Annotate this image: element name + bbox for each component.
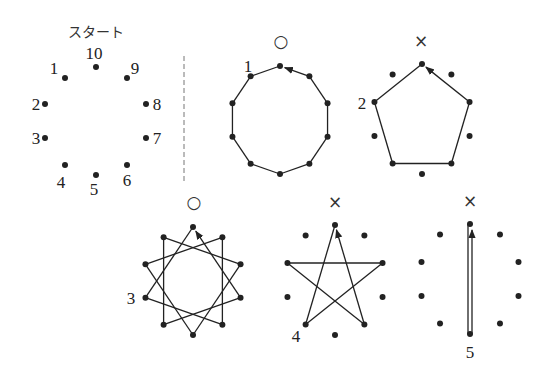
start-point-label: 10: [86, 44, 103, 63]
figure-label: 3: [127, 289, 136, 308]
dot: [219, 234, 225, 240]
path-line: [251, 164, 280, 174]
cross-mark-icon: ×: [463, 191, 477, 211]
dot: [437, 320, 443, 326]
dot: [361, 233, 367, 239]
dot: [238, 295, 244, 301]
path-line: [451, 102, 469, 163]
dot: [380, 294, 386, 300]
dot: [277, 63, 283, 69]
dot: [303, 321, 309, 327]
dot: [516, 293, 522, 299]
dot: [380, 260, 386, 266]
dot: [229, 134, 235, 140]
dot: [284, 260, 290, 266]
dot: [332, 222, 338, 228]
path-line: [374, 102, 392, 163]
dot: [229, 100, 235, 106]
start-panel: スタート 12345678910: [32, 24, 162, 199]
start-dot: [62, 75, 68, 81]
dot: [361, 321, 367, 327]
start-point-label: 1: [50, 59, 59, 78]
path-arrow: [336, 230, 364, 325]
cross-mark-icon: ×: [328, 192, 342, 212]
start-point-label: 3: [32, 129, 41, 148]
start-dot: [143, 101, 149, 107]
dot: [419, 61, 425, 67]
start-point-label: 2: [32, 95, 41, 114]
start-point-label: 7: [153, 129, 162, 148]
start-dot: [143, 135, 149, 141]
figure-label: 2: [358, 94, 367, 113]
path-line: [287, 263, 364, 324]
dot: [497, 232, 503, 238]
dot: [303, 233, 309, 239]
dot: [190, 332, 196, 338]
dot: [332, 332, 338, 338]
dot: [467, 331, 473, 337]
dot: [371, 133, 377, 139]
figure-label: 4: [292, 327, 301, 346]
path-line: [232, 137, 250, 164]
path-arrow: [285, 68, 310, 77]
path-line: [306, 263, 383, 324]
cross-mark-icon: ×: [414, 31, 428, 51]
start-dot: [124, 162, 130, 168]
path-arrow: [426, 67, 470, 102]
dot: [248, 161, 254, 167]
path-line: [309, 76, 327, 103]
path-line: [251, 66, 280, 76]
dot: [419, 171, 425, 177]
path-line: [309, 137, 327, 164]
path-line: [232, 76, 250, 103]
path-line: [306, 225, 335, 324]
start-point-label: 5: [90, 180, 99, 199]
dot: [284, 294, 290, 300]
dot: [325, 100, 331, 106]
dot: [161, 322, 167, 328]
start-point-label: 9: [131, 59, 140, 78]
figure-step2: ×2: [358, 31, 473, 177]
dot: [448, 160, 454, 166]
start-dot: [124, 75, 130, 81]
dot: [306, 73, 312, 79]
diagram-canvas: スタート 12345678910 ○1×2○3×4×5: [0, 0, 556, 380]
start-dot: [93, 64, 99, 70]
start-title: スタート: [68, 24, 124, 40]
start-dot: [93, 172, 99, 178]
dot: [277, 171, 283, 177]
start-point-label: 8: [153, 95, 162, 114]
dot: [467, 99, 473, 105]
dot: [437, 232, 443, 238]
path-arrow: [196, 231, 241, 298]
circle-mark-icon: ○: [274, 31, 289, 51]
dot: [448, 72, 454, 78]
start-points: 12345678910: [32, 44, 162, 199]
figure-step4: ×4: [284, 192, 385, 346]
dot: [161, 234, 167, 240]
path-line: [280, 164, 309, 174]
path-line: [374, 64, 422, 102]
dot: [142, 261, 148, 267]
dot: [516, 259, 522, 265]
dot: [190, 224, 196, 230]
figure-step3: ○3: [127, 192, 244, 338]
figure-label: 1: [244, 57, 253, 76]
dot: [418, 259, 424, 265]
dot: [418, 293, 424, 299]
dot: [219, 322, 225, 328]
dot: [467, 221, 473, 227]
dot: [390, 72, 396, 78]
start-point-label: 6: [123, 171, 132, 190]
dot: [142, 295, 148, 301]
figure-step1: ○1: [229, 31, 330, 177]
dot: [371, 99, 377, 105]
start-dot: [42, 135, 48, 141]
figure-label: 5: [466, 343, 475, 362]
dot: [238, 261, 244, 267]
figures: ○1×2○3×4×5: [127, 31, 522, 362]
circle-mark-icon: ○: [187, 192, 202, 212]
dot: [467, 133, 473, 139]
start-dot: [42, 101, 48, 107]
dot: [497, 320, 503, 326]
